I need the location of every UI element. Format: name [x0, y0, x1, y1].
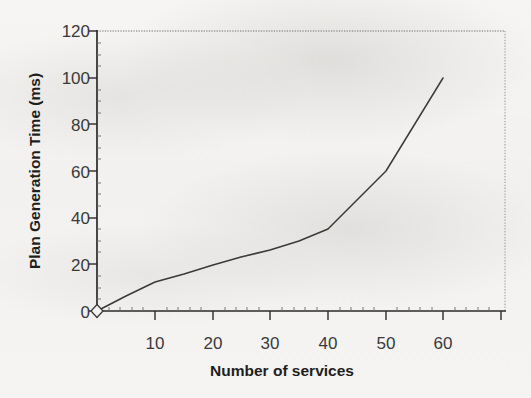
- x-tick-label-60: 60: [434, 334, 453, 353]
- x-tick-label-30: 30: [261, 334, 280, 353]
- x-axis-tick-labels: 10 20 30 40 50 60: [146, 334, 453, 353]
- plot-frame: [96, 30, 506, 312]
- y-tick-label-80: 80: [71, 116, 90, 135]
- y-axis-title: Plan Generation Time (ms): [26, 73, 43, 269]
- line-chart: 120 100 80 60 40 20 0 Plan Generation Ti…: [0, 0, 531, 398]
- y-tick-label-100: 100: [62, 69, 90, 88]
- x-tick-label-40: 40: [319, 334, 338, 353]
- chart-svg: 120 100 80 60 40 20 0 Plan Generation Ti…: [0, 0, 531, 398]
- x-axis-ticks: [155, 311, 501, 320]
- x-tick-label-20: 20: [204, 334, 223, 353]
- x-tick-label-50: 50: [377, 334, 396, 353]
- x-axis-title: Number of services: [210, 362, 354, 379]
- y-tick-label-60: 60: [71, 163, 90, 182]
- y-axis-ticks: [89, 31, 97, 311]
- y-axis-tick-labels: 120 100 80 60 40 20 0: [62, 22, 90, 322]
- y-tick-label-20: 20: [71, 256, 90, 275]
- y-tick-label-40: 40: [71, 209, 90, 228]
- origin-diamond-marker: [91, 305, 103, 318]
- x-tick-label-10: 10: [146, 334, 165, 353]
- series-line: [97, 78, 443, 311]
- y-tick-label-120: 120: [62, 22, 90, 41]
- data-series-plan-generation-time: [91, 78, 443, 318]
- y-tick-label-0: 0: [81, 303, 90, 322]
